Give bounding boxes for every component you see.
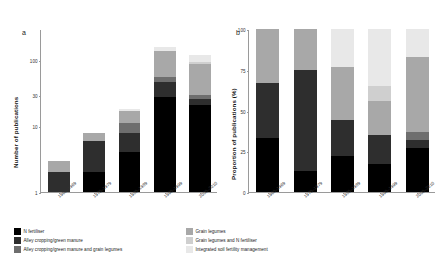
panel-a: a Number of publications 110301001960–19…	[0, 0, 222, 225]
bar-segment	[368, 101, 391, 135]
bar-segment	[189, 95, 211, 99]
legend-item: Integrated soil fertility management	[186, 246, 268, 253]
panel-a-y-tick-label: 10	[32, 125, 37, 130]
bar-panel-b-3	[368, 29, 391, 192]
legend-item: Grain legumes and N fertiliser	[186, 237, 268, 244]
legend-item: Grain legumes	[186, 228, 268, 235]
panel-a-y-tick-label: 1	[35, 191, 38, 196]
bar-segment	[154, 97, 176, 192]
legend-swatch-icon	[14, 246, 21, 253]
panel-b-y-tick-label: 0	[243, 191, 246, 196]
legend-item-label: N fertiliser	[24, 229, 45, 234]
panel-a-letter: a	[22, 29, 26, 36]
panel-b-y-tick	[247, 152, 250, 153]
panel-b-y-tick	[247, 193, 250, 194]
bar-segment	[189, 99, 211, 105]
panel-b-y-tick-label: 75	[240, 68, 245, 73]
panel-b-y-tick-label: 25	[240, 150, 245, 155]
bar-segment	[256, 29, 279, 83]
bar-segment	[119, 123, 141, 132]
bar-segment	[294, 70, 317, 171]
panel-a-y-tick	[39, 127, 42, 128]
panel-b: b Proportion of publications (%) 0255075…	[222, 0, 444, 225]
bar-panel-b-4	[406, 29, 429, 192]
panel-a-y-axis-label: Number of publications	[12, 97, 19, 168]
bar-panel-a-3	[154, 47, 176, 192]
panel-b-y-tick	[247, 71, 250, 72]
bar-segment	[154, 51, 176, 77]
bar-segment	[119, 133, 141, 153]
bar-segment	[406, 132, 429, 140]
bar-segment	[189, 64, 211, 94]
bar-segment	[256, 83, 279, 138]
bar-segment	[119, 111, 141, 123]
bar-segment	[406, 140, 429, 148]
bar-panel-b-1	[294, 29, 317, 192]
panel-b-y-tick	[247, 30, 250, 31]
legend-swatch-icon	[186, 228, 193, 235]
bar-segment	[83, 133, 105, 141]
panel-a-y-tick	[39, 61, 42, 62]
bar-segment	[406, 29, 429, 57]
panel-a-y-tick	[39, 193, 42, 194]
bar-segment	[154, 82, 176, 97]
legend-item: N fertiliser	[14, 228, 122, 235]
bar-segment	[331, 120, 354, 156]
bar-segment	[294, 29, 317, 70]
bar-segment	[368, 86, 391, 101]
bar-segment	[83, 141, 105, 172]
figure-stacked-bar-publications: a Number of publications 110301001960–19…	[0, 0, 444, 267]
bar-segment	[368, 29, 391, 86]
legend-item-label: Alley cropping/green manure	[24, 238, 83, 243]
panel-b-y-tick-label: 100	[238, 28, 246, 33]
bar-segment	[331, 29, 354, 66]
bar-segment	[189, 62, 211, 65]
legend-item-label: Alley cropping/green manure and grain le…	[24, 247, 123, 252]
legend-swatch-icon	[14, 237, 21, 244]
legend-column-2: Grain legumesGrain legumes and N fertili…	[186, 228, 268, 255]
bar-panel-b-0	[256, 29, 279, 192]
legend-item: Alley cropping/green manure	[14, 237, 122, 244]
bar-segment	[368, 135, 391, 164]
bar-segment	[189, 105, 211, 192]
legend-item: Alley cropping/green manure and grain le…	[14, 246, 122, 253]
panel-b-plot-area: 02550751001960–19691970–19791980–1989199…	[248, 30, 435, 193]
panel-b-y-axis-label: Proportion of publications (%)	[230, 88, 237, 180]
legend: N fertiliserAlley cropping/green manureA…	[0, 228, 444, 267]
panel-b-y-tick-label: 50	[240, 109, 245, 114]
legend-item-label: Grain legumes and N fertiliser	[196, 238, 257, 243]
legend-swatch-icon	[186, 246, 193, 253]
legend-item-label: Integrated soil fertility management	[196, 247, 268, 252]
panel-a-plot-area: 110301001960–19691970–19791980–19891990–…	[40, 30, 217, 193]
bar-segment	[154, 77, 176, 82]
panel-b-y-tick	[247, 112, 250, 113]
bar-panel-b-2	[331, 29, 354, 192]
bar-segment	[331, 67, 354, 121]
bar-segment	[406, 57, 429, 132]
panel-a-y-tick	[39, 96, 42, 97]
bar-segment	[48, 161, 70, 173]
panel-a-y-tick-label: 30	[32, 93, 37, 98]
bar-segment	[189, 55, 211, 61]
legend-swatch-icon	[14, 228, 21, 235]
legend-column-1: N fertiliserAlley cropping/green manureA…	[14, 228, 122, 255]
bar-panel-a-1	[83, 133, 105, 192]
bar-segment	[154, 47, 176, 51]
bar-panel-a-4	[189, 55, 211, 192]
bar-segment	[119, 109, 141, 111]
legend-item-label: Grain legumes	[196, 229, 226, 234]
legend-swatch-icon	[186, 237, 193, 244]
panel-a-y-tick-label: 100	[30, 59, 38, 64]
bar-panel-a-2	[119, 109, 141, 192]
bar-segment	[256, 138, 279, 192]
